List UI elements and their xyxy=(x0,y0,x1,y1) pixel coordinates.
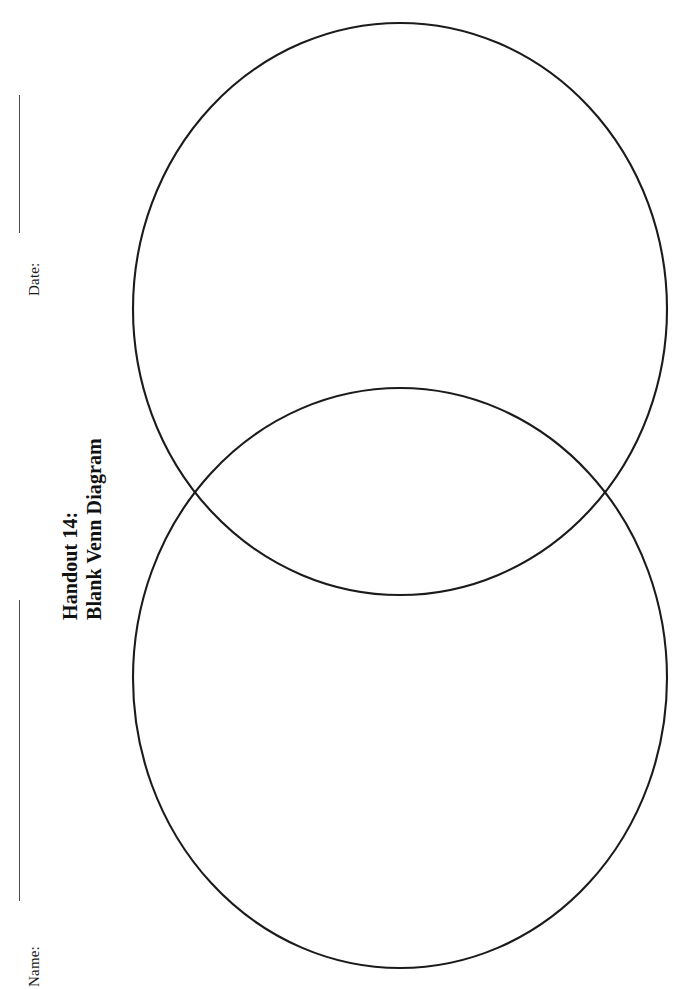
venn-diagram xyxy=(0,0,680,990)
handout-page: Date: Name: Handout 14: Blank Venn Diagr… xyxy=(0,0,680,990)
venn-circle-top xyxy=(133,23,667,595)
venn-circle-bottom xyxy=(133,388,667,968)
